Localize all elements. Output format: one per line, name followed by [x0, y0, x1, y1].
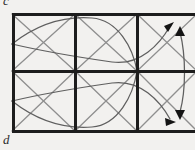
figure-label-d: d	[3, 133, 10, 146]
arrowhead-top-curve	[164, 22, 174, 32]
curve-lower-right-lobe	[12, 83, 170, 119]
figure-panel: c	[0, 0, 195, 150]
grid-diagram	[0, 0, 195, 150]
arrowhead-bottom-vertical	[175, 110, 185, 120]
